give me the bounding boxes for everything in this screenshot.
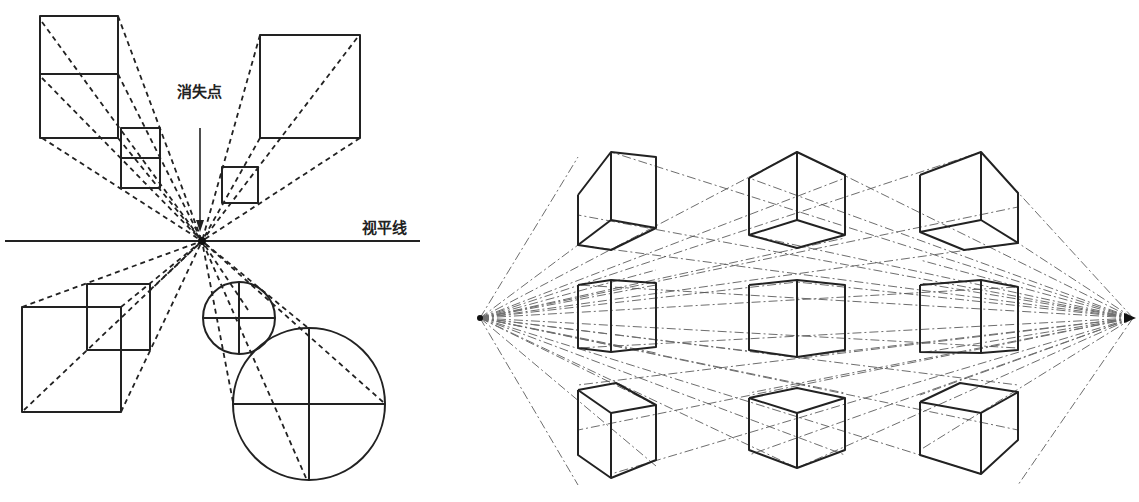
bottom-left-square-pair	[22, 241, 202, 412]
right-panel-two-point-perspective	[477, 152, 1136, 485]
near-square	[260, 35, 360, 138]
vanishing-point-label: 消失点	[177, 83, 222, 101]
top-left-rect-pair	[40, 16, 202, 241]
vanishing-point-marker	[198, 237, 206, 245]
cube-bottom-left	[578, 383, 656, 478]
cube-bottom-right	[920, 383, 1018, 474]
near-square	[22, 307, 121, 412]
cube-bottom-center	[749, 388, 845, 468]
cube-top-left	[578, 152, 656, 250]
perspective-diagram: 消失点 视平线	[0, 0, 1139, 502]
cube-middle-left	[578, 280, 656, 352]
near-rect	[40, 16, 118, 138]
convergence-lines	[202, 241, 383, 478]
left-vanishing-point	[477, 315, 483, 321]
circle-pair	[202, 241, 385, 480]
convergence-lines	[22, 241, 202, 412]
left-panel-one-point-perspective: 消失点 视平线	[5, 16, 420, 480]
cube-middle-center	[749, 280, 845, 357]
top-right-square-pair	[202, 35, 360, 241]
cube-top-right	[920, 152, 1018, 250]
horizon-label: 视平线	[362, 219, 407, 237]
vanishing-point-arrow	[196, 128, 204, 232]
